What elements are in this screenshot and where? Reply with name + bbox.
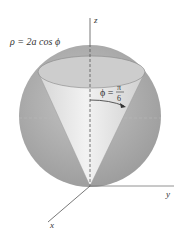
- equation-label: ρ = 2a cos ϕ: [9, 36, 60, 47]
- y-axis-label: y: [165, 189, 170, 199]
- z-axis-label: z: [93, 15, 98, 25]
- x-axis-label: x: [49, 220, 54, 230]
- angle-label-denominator: 6: [117, 94, 121, 103]
- angle-label-lhs: ϕ =: [100, 87, 114, 98]
- cone-top-ellipse: [38, 56, 145, 88]
- angle-label-numerator: π: [117, 83, 121, 92]
- sphere-cone-diagram: ρ = 2a cos ϕ ϕ = π 6 z y x: [0, 0, 184, 231]
- x-axis: [48, 186, 90, 222]
